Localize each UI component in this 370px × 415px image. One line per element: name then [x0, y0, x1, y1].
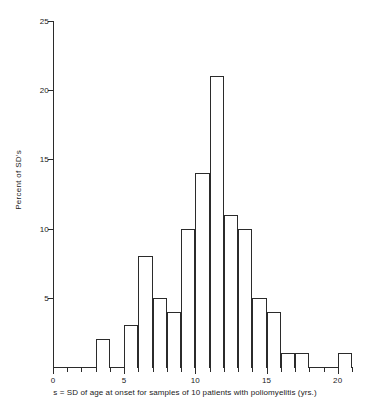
x-tick-20 [338, 367, 339, 374]
x-tick-label: 5 [122, 376, 127, 385]
y-tick-25: 25 [53, 21, 54, 22]
y-tick-15: 15 [53, 159, 54, 160]
y-axis-title: Percent of SD's [14, 150, 28, 210]
x-tick-5 [124, 367, 125, 374]
plot-area: 510152025 05101520 [53, 21, 352, 367]
y-tick-label: 15 [40, 155, 49, 164]
histogram-bar [138, 256, 152, 368]
x-tick-4 [110, 367, 111, 372]
x-tick-label: 15 [262, 376, 271, 385]
x-tick-1 [67, 367, 68, 372]
y-tick-label: 25 [40, 17, 49, 26]
histogram-bar [153, 298, 167, 368]
histogram-bar [195, 173, 209, 368]
x-tick-label: 10 [191, 376, 200, 385]
histogram-bar [167, 312, 181, 368]
histogram-bar [252, 298, 266, 368]
histogram-figure: Percent of SD's 510152025 05101520 s = S… [0, 0, 370, 415]
histogram-bar [338, 353, 352, 368]
histogram-bar [295, 353, 309, 368]
x-tick-19 [324, 367, 325, 372]
y-tick-10: 10 [53, 229, 54, 230]
x-tick-label: 0 [51, 376, 56, 385]
x-tick-0 [53, 367, 54, 374]
x-axis-caption: s = SD of age at onset for samples of 10… [0, 388, 370, 397]
histogram-bar [124, 325, 138, 368]
x-tick-10 [195, 367, 196, 374]
x-tick-15 [267, 367, 268, 374]
x-tick-18 [309, 367, 310, 372]
histogram-bar [181, 229, 195, 368]
x-tick-2 [81, 367, 82, 372]
histogram-bar [238, 229, 252, 368]
histogram-bar [224, 215, 238, 368]
y-tick-label: 10 [40, 224, 49, 233]
histogram-bar [267, 312, 281, 368]
x-tick-21 [352, 367, 353, 372]
y-tick-label: 5 [44, 293, 49, 302]
histogram-bar [96, 339, 110, 368]
histogram-bar [210, 76, 224, 368]
y-tick-label: 20 [40, 86, 49, 95]
histogram-bar [281, 353, 295, 368]
y-axis-line [53, 21, 54, 368]
y-tick-5: 5 [53, 298, 54, 299]
x-tick-label: 20 [333, 376, 342, 385]
y-tick-20: 20 [53, 90, 54, 91]
